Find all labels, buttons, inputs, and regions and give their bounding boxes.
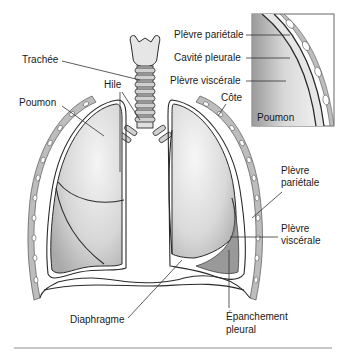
effusion-label: Épanchement <box>226 310 288 322</box>
visceral-pleura-label: Plèvre <box>281 223 310 234</box>
diaphragm-label: Diaphragme <box>70 314 125 325</box>
diaphragm <box>40 276 250 298</box>
inset-parietal-pleura-label: Plèvre pariétale <box>174 29 244 40</box>
parietal-pleura-label: Plèvre <box>281 165 310 176</box>
larynx <box>130 35 160 67</box>
divider <box>14 347 332 349</box>
effusion-label-2: pleural <box>226 324 256 335</box>
inset-visceral-pleura-label: Plèvre viscérale <box>170 75 241 86</box>
lung-label: Poumon <box>19 97 56 108</box>
hilum-label: Hile <box>104 79 122 90</box>
rib-label: Côte <box>221 92 243 103</box>
pleural-effusion-diagram: Poumon Plèvre pariétale Cavité pleurale … <box>0 0 339 354</box>
trachea-label: Trachée <box>22 54 59 65</box>
inset-pleural-cavity-label: Cavité pleurale <box>174 52 241 63</box>
inset-lung-label: Poumon <box>257 112 294 123</box>
parietal-pleura-label-2: pariétale <box>281 177 320 188</box>
pleura-inset: Poumon <box>252 14 334 126</box>
visceral-pleura-label-2: viscérale <box>281 235 321 246</box>
